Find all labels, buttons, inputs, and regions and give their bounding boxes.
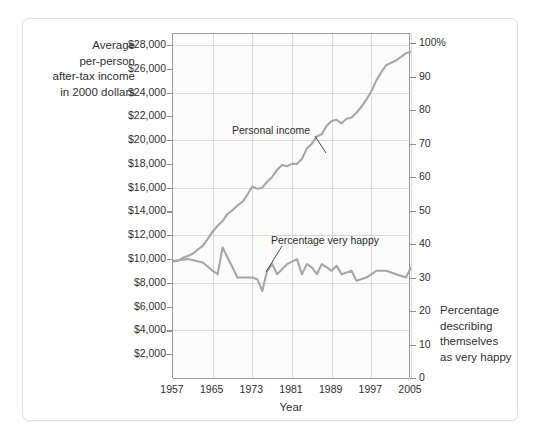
- y-axis-right-tick-label: 100%: [419, 36, 459, 48]
- y-axis-right-tick-mark: [410, 110, 416, 111]
- y-axis-right-tick-label: 60: [419, 170, 459, 182]
- y-axis-left-tick-label: $14,000: [88, 204, 166, 216]
- y-axis-left-tick-label: $8,000: [88, 276, 166, 288]
- annotation-percentage-very-happy: Percentage very happy: [271, 234, 379, 246]
- leader-line-personal-income: [315, 136, 355, 166]
- y-axis-left-tick-mark: [167, 45, 172, 46]
- y-axis-right-tick-mark: [410, 144, 416, 145]
- y-axis-right-tick-label: 80: [419, 103, 459, 115]
- y-axis-right-tick-mark: [410, 244, 416, 245]
- y-axis-right-tick-mark: [410, 378, 416, 379]
- x-axis-tick-label: 2005: [386, 383, 434, 395]
- y-axis-left-tick-mark: [167, 307, 172, 308]
- annotation-personal-income: Personal income: [232, 124, 310, 136]
- y-axis-right-tick-mark: [410, 211, 416, 212]
- y-axis-right-tick-mark: [410, 43, 416, 44]
- x-axis-title: Year: [172, 401, 410, 413]
- y-axis-right-tick-label: 10: [419, 338, 459, 350]
- y-axis-left-tick-label: $24,000: [88, 86, 166, 98]
- y-axis-left-tick-mark: [167, 259, 172, 260]
- y-axis-right-tick-label: 20: [419, 304, 459, 316]
- y-axis-left-tick-mark: [167, 164, 172, 165]
- y-axis-left-tick-mark: [167, 354, 172, 355]
- y-axis-right-tick-mark: [410, 177, 416, 178]
- y-axis-left-tick-label: $22,000: [88, 109, 166, 121]
- y-axis-right-tick-label: 70: [419, 137, 459, 149]
- y-axis-left-tick-label: $20,000: [88, 133, 166, 145]
- y-axis-left-tick-mark: [167, 116, 172, 117]
- y-axis-left-tick-mark: [167, 235, 172, 236]
- y-axis-right-tick-label: 50: [419, 204, 459, 216]
- leader-line-percentage-very-happy: [266, 246, 306, 286]
- y-axis-right-tick-label: 40: [419, 237, 459, 249]
- y-axis-left-tick-mark: [167, 283, 172, 284]
- y-axis-right-tick-label: 90: [419, 70, 459, 82]
- y-axis-left-tick-mark: [167, 69, 172, 70]
- y-axis-left-tick-label: $10,000: [88, 252, 166, 264]
- gridline-vertical: [411, 33, 412, 378]
- y-axis-left-tick-label: $28,000: [88, 38, 166, 50]
- y-axis-left-tick-label: $16,000: [88, 181, 166, 193]
- y-axis-left-tick-label: $26,000: [88, 62, 166, 74]
- y-axis-right-tick-mark: [410, 77, 416, 78]
- y-axis-left-tick-label: $2,000: [88, 347, 166, 359]
- y-axis-left-tick-mark: [167, 140, 172, 141]
- y-axis-left-tick-label: $6,000: [88, 300, 166, 312]
- y-axis-left-tick-mark: [167, 188, 172, 189]
- y-axis-left-tick-mark: [167, 211, 172, 212]
- y-axis-left-tick-mark: [167, 93, 172, 94]
- y-axis-left-tick-label: $12,000: [88, 228, 166, 240]
- personal-income-line: [173, 52, 411, 261]
- y-axis-right-tick-mark: [410, 278, 416, 279]
- series-lines: [173, 33, 411, 378]
- y-axis-right-tick-label: 0: [419, 371, 459, 383]
- plot-area: [172, 33, 410, 378]
- y-axis-left-tick-label: $4,000: [88, 323, 166, 335]
- y-axis-right-tick-mark: [410, 345, 416, 346]
- y-axis-left-tick-label: $18,000: [88, 157, 166, 169]
- y-axis-right-tick-mark: [410, 311, 416, 312]
- y-axis-left-tick-mark: [167, 330, 172, 331]
- y-axis-right-tick-label: 30: [419, 271, 459, 283]
